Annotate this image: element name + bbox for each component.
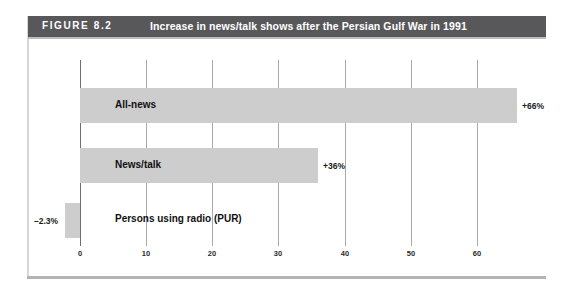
bar-value-pur: –2.3% <box>34 216 58 226</box>
bar-label-news-talk: News/talk <box>115 159 161 170</box>
chart-plot-area: All-news +66% News/talk +36% Persons usi… <box>0 0 575 297</box>
bar-label-pur: Persons using radio (PUR) <box>115 213 242 224</box>
xtick-label-10: 10 <box>142 249 150 258</box>
xtick-label-60: 60 <box>473 249 481 258</box>
bar-value-all-news: +66% <box>522 101 544 111</box>
bar-label-all-news: All-news <box>115 99 156 110</box>
xtick-label-30: 30 <box>274 249 282 258</box>
figure-container: FIGURE 8.2 Increase in news/talk shows a… <box>0 0 575 297</box>
xtick-label-20: 20 <box>208 249 216 258</box>
xtick-label-50: 50 <box>407 249 415 258</box>
bar-value-news-talk: +36% <box>323 161 345 171</box>
xtick-label-40: 40 <box>341 249 349 258</box>
bar-pur <box>65 203 80 238</box>
xtick-label-0: 0 <box>78 249 82 258</box>
